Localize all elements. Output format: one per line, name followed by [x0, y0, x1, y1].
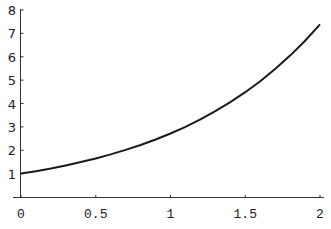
line-chart: 12345678 00.511.52	[0, 0, 331, 229]
y-tick-label: 6	[8, 50, 16, 65]
x-axis: 00.511.52	[13, 195, 324, 222]
y-tick-label: 1	[8, 167, 16, 182]
y-tick-label: 8	[8, 3, 16, 18]
x-tick-label: 0.5	[84, 207, 107, 222]
x-tick-label: 0	[17, 207, 25, 222]
y-tick-label: 4	[8, 97, 16, 112]
y-axis: 12345678	[8, 3, 24, 197]
x-tick-label: 1	[167, 207, 175, 222]
exp-curve	[21, 24, 320, 173]
x-tick-label: 2	[316, 207, 324, 222]
y-tick-label: 3	[8, 120, 16, 135]
y-tick-label: 7	[8, 26, 16, 41]
x-tick-label: 1.5	[234, 207, 257, 222]
y-tick-label: 2	[8, 143, 16, 158]
y-tick-label: 5	[8, 73, 16, 88]
